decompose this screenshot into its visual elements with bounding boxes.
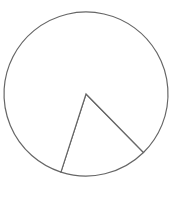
pie-chart	[0, 0, 178, 198]
pie-slices	[4, 12, 168, 176]
